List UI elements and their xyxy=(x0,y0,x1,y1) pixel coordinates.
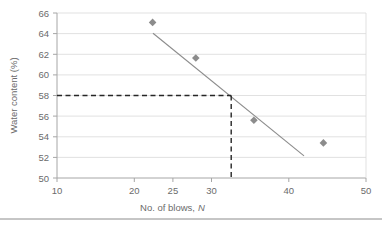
y-tick-label-66: 66 xyxy=(38,8,49,19)
x-axis-ticks xyxy=(57,178,366,182)
x-tick-label-50: 50 xyxy=(361,185,372,196)
x-axis-title: No. of blows, xyxy=(140,202,195,213)
y-tick-label-54: 54 xyxy=(38,131,49,142)
y-tick-label-64: 64 xyxy=(38,28,49,39)
y-tick-label-60: 60 xyxy=(38,69,49,80)
y-tick-label-52: 52 xyxy=(38,152,49,163)
y-tick-label-62: 62 xyxy=(38,49,49,60)
x-tick-label-25: 25 xyxy=(168,185,179,196)
x-tick-label-40: 40 xyxy=(284,185,295,196)
y-tick-label-56: 56 xyxy=(38,111,49,122)
x-tick-label-30: 30 xyxy=(206,185,217,196)
x-axis-title-variable: N xyxy=(198,202,205,213)
y-tick-label-58: 58 xyxy=(38,90,49,101)
y-tick-labels: 66 64 62 60 58 56 54 52 50 xyxy=(38,8,49,184)
x-tick-labels: 10 20 25 30 40 50 xyxy=(52,185,372,196)
y-axis-ticks xyxy=(53,13,57,178)
x-tick-label-10: 10 xyxy=(52,185,63,196)
y-tick-label-50: 50 xyxy=(38,173,49,184)
chart-figure: 66 64 62 60 58 56 54 52 50 10 20 25 30 4… xyxy=(0,0,382,226)
y-axis-title: Water content (%) xyxy=(8,57,19,133)
water-content-scatter-chart: 66 64 62 60 58 56 54 52 50 10 20 25 30 4… xyxy=(0,0,382,226)
x-tick-label-20: 20 xyxy=(129,185,140,196)
